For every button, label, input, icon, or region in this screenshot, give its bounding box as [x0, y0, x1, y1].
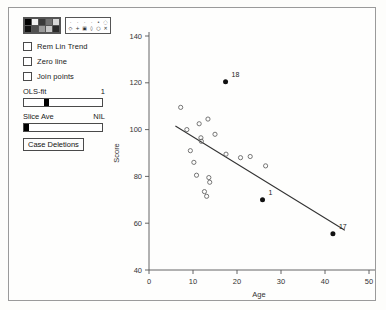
color-swatch-3[interactable]: [46, 19, 52, 25]
color-swatch-7[interactable]: [39, 26, 45, 32]
checkbox-join-points[interactable]: Join points: [23, 72, 74, 81]
color-swatch-8[interactable]: [46, 26, 52, 32]
data-point-open-13[interactable]: [213, 132, 217, 136]
data-point-open-16[interactable]: [248, 154, 252, 158]
color-swatch-2[interactable]: [39, 19, 45, 25]
x-tick-label-5: 50: [365, 277, 373, 286]
ols-fit-header: OLS-fit 1: [23, 87, 105, 96]
symbol-swatch-10[interactable]: ○: [95, 25, 102, 31]
y-tick-label-2: 80: [134, 172, 142, 181]
slice-ave-header: Slice Ave NIL: [23, 112, 105, 121]
symbol-swatch-9[interactable]: ◊: [88, 25, 95, 31]
x-tick-label-4: 40: [321, 277, 329, 286]
data-point-label-18: 18: [232, 71, 240, 78]
symbol-swatch-8[interactable]: ▣: [81, 25, 88, 31]
symbol-swatch-6[interactable]: ◇: [67, 25, 74, 31]
ols-fit-line: [175, 126, 344, 230]
color-swatch-9[interactable]: [53, 26, 59, 32]
palette-row: ····•◌◇+▣◊○✕: [23, 17, 111, 34]
data-point-open-10[interactable]: [206, 117, 210, 121]
data-point-open-14[interactable]: [224, 152, 228, 156]
y-tick-label-0: 40: [134, 266, 142, 275]
window-frame: ····•◌◇+▣◊○✕ Rem Lin Trend Zero line Joi…: [8, 7, 376, 301]
data-point-label-1: 1: [269, 189, 273, 196]
scatter-plot-svg: 40608010012014001020304050AgeScore18117: [107, 18, 379, 308]
checkbox-label-join-points: Join points: [37, 72, 74, 81]
x-tick-label-1: 10: [189, 277, 197, 286]
data-point-open-5[interactable]: [197, 122, 201, 126]
data-point-open-8[interactable]: [202, 190, 206, 194]
color-swatch-0[interactable]: [25, 19, 31, 25]
y-tick-label-3: 100: [129, 125, 142, 134]
y-axis-title: Score: [112, 143, 121, 163]
color-swatch-4[interactable]: [53, 19, 59, 25]
color-swatch-1[interactable]: [32, 19, 38, 25]
data-point-open-2[interactable]: [188, 149, 192, 153]
checkbox-zero-line[interactable]: Zero line: [23, 57, 67, 66]
y-tick-label-5: 140: [129, 32, 142, 41]
data-point-open-0[interactable]: [179, 105, 183, 109]
scatter-plot: 40608010012014001020304050AgeScore18117: [107, 18, 379, 308]
checkbox-box-zero-line[interactable]: [23, 57, 32, 66]
checkbox-label-zero-line: Zero line: [37, 57, 67, 66]
ols-fit-slider-knob[interactable]: [44, 99, 49, 106]
y-tick-label-1: 60: [134, 219, 142, 228]
x-tick-label-2: 20: [233, 277, 241, 286]
control-panel: ····•◌◇+▣◊○✕ Rem Lin Trend Zero line Joi…: [21, 16, 107, 146]
data-point-label-17: 17: [339, 223, 347, 230]
color-swatch-6[interactable]: [32, 26, 38, 32]
slice-ave-slider-knob[interactable]: [24, 124, 29, 131]
data-point-open-9[interactable]: [205, 194, 209, 198]
data-point-open-3[interactable]: [192, 160, 196, 164]
data-point-open-17[interactable]: [264, 164, 268, 168]
data-point-open-4[interactable]: [194, 173, 198, 177]
symbol-swatch-7[interactable]: +: [74, 25, 81, 31]
ols-fit-value: 1: [101, 87, 105, 96]
data-point-open-1[interactable]: [185, 128, 189, 132]
slice-ave-slider[interactable]: [23, 123, 103, 132]
symbol-palette[interactable]: ····•◌◇+▣◊○✕: [65, 17, 111, 34]
slice-ave-value: NIL: [93, 112, 105, 121]
case-deletions-button[interactable]: Case Deletions: [23, 138, 84, 151]
data-point-open-15[interactable]: [238, 156, 242, 160]
data-point-open-12[interactable]: [208, 180, 212, 184]
ols-fit-slider[interactable]: [23, 98, 103, 107]
data-point-filled-18[interactable]: [223, 79, 228, 84]
color-palette[interactable]: [23, 17, 61, 34]
x-tick-label-3: 30: [277, 277, 285, 286]
ols-fit-label: OLS-fit: [23, 87, 46, 96]
data-point-open-11[interactable]: [207, 175, 211, 179]
checkbox-box-rem-lin-trend[interactable]: [23, 42, 32, 51]
y-tick-label-4: 120: [129, 78, 142, 87]
color-swatch-5[interactable]: [25, 26, 31, 32]
checkbox-box-join-points[interactable]: [23, 72, 32, 81]
slice-ave-label: Slice Ave: [23, 112, 54, 121]
checkbox-label-rem-lin-trend: Rem Lin Trend: [37, 42, 88, 51]
x-axis-title: Age: [252, 290, 265, 299]
checkbox-rem-lin-trend[interactable]: Rem Lin Trend: [23, 42, 88, 51]
data-point-filled-19[interactable]: [260, 197, 265, 202]
x-tick-label-0: 0: [147, 277, 151, 286]
data-point-filled-20[interactable]: [330, 231, 335, 236]
app-root: ····•◌◇+▣◊○✕ Rem Lin Trend Zero line Joi…: [0, 0, 386, 310]
